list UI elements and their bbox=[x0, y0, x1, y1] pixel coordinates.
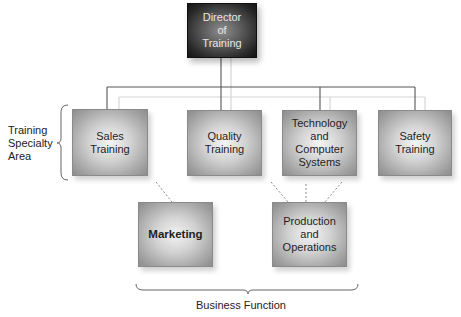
safety-training-label: Safety Training bbox=[395, 130, 434, 156]
marketing-label: Marketing bbox=[148, 228, 202, 241]
safety-training-box: Safety Training bbox=[378, 110, 452, 176]
marketing-box: Marketing bbox=[138, 202, 213, 267]
technology-systems-label: Technology and Computer Systems bbox=[292, 117, 348, 169]
quality-training-box: Quality Training bbox=[187, 110, 262, 176]
production-operations-box: Production and Operations bbox=[272, 202, 347, 267]
production-operations-label: Production and Operations bbox=[283, 215, 337, 254]
technology-systems-box: Technology and Computer Systems bbox=[282, 110, 357, 176]
sales-training-label: Sales Training bbox=[90, 130, 129, 156]
quality-training-label: Quality Training bbox=[205, 130, 244, 156]
solid-connectors bbox=[107, 58, 415, 110]
director-label: Director of Training bbox=[202, 11, 241, 50]
business-function-label: Business Function bbox=[196, 299, 286, 312]
org-chart-diagram: Director of Training Sales Training Qual… bbox=[0, 0, 461, 317]
specialty-brace bbox=[57, 105, 68, 180]
training-specialty-area-label: Training Specialty Area bbox=[8, 124, 53, 163]
director-of-training-box: Director of Training bbox=[187, 3, 257, 58]
light-connectors bbox=[119, 58, 425, 110]
business-brace bbox=[136, 284, 358, 294]
dashed-connectors bbox=[156, 182, 342, 202]
sales-training-box: Sales Training bbox=[72, 109, 148, 176]
